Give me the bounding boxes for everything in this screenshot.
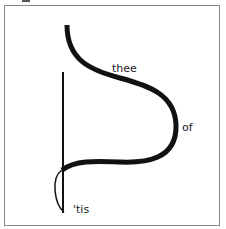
concrete-poem-drawing	[0, 0, 226, 229]
word-tis: 'tis	[73, 203, 89, 216]
thick-curve	[62, 25, 176, 170]
word-of: of	[182, 121, 193, 134]
word-thee: thee	[112, 62, 137, 75]
